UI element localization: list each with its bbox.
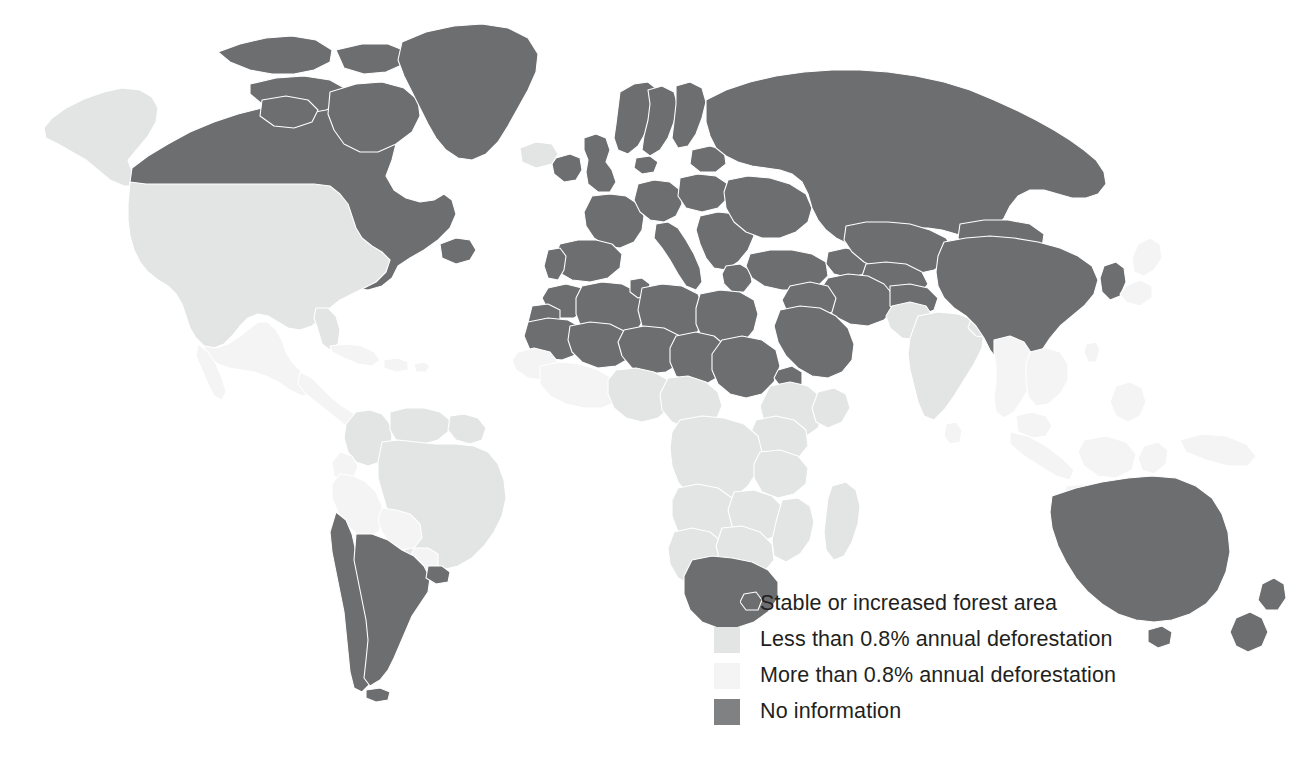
legend-item-stable[interactable]: Stable or increased forest area [714,586,1304,622]
legend-item-no-info[interactable]: No information [714,694,1304,730]
legend-swatch-no-info [714,699,740,725]
map-legend: Stable or increased forest area Less tha… [714,586,1304,730]
region-tierra-del-fuego[interactable] [366,688,390,702]
legend-item-less-than[interactable]: Less than 0.8% annual deforestation [714,622,1304,658]
legend-label-stable: Stable or increased forest area [760,593,1057,615]
legend-swatch-less-than [714,627,740,653]
legend-swatch-stable [714,591,740,617]
region-denmark[interactable] [634,156,658,174]
legend-label-less-than: Less than 0.8% annual deforestation [760,629,1113,651]
world-deforestation-map-page: Stable or increased forest area Less tha… [0,0,1311,776]
legend-swatch-more-than [714,663,740,689]
legend-item-more-than[interactable]: More than 0.8% annual deforestation [714,658,1304,694]
legend-label-more-than: More than 0.8% annual deforestation [760,665,1116,687]
legend-label-no-info: No information [760,701,901,723]
